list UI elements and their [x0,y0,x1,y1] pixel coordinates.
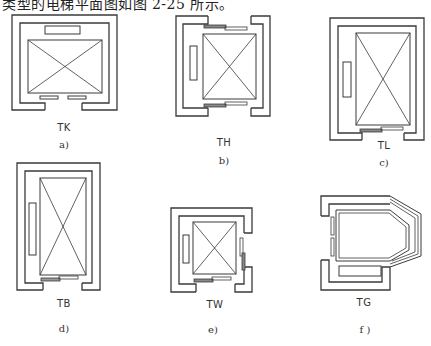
door-panel [360,129,382,132]
door-panel-side [331,238,334,256]
counterweight-rect [45,26,80,34]
counterweight-rect [29,203,36,255]
panel-f-tg-plan [321,196,421,290]
shaft-wall-outer [321,260,390,290]
panel-c-tl-plan [330,18,424,140]
counterweight-rect [190,46,197,80]
door-panel [68,96,86,99]
glass-wall-line [390,196,421,267]
door-panel [381,127,403,130]
panel-e-tw-plan [171,208,252,292]
panel-f-code: TG [357,297,372,308]
shaft-wall-inner [321,260,390,282]
panel-b-th-plan [176,16,270,116]
panel-b-sublabel: b) [219,155,229,166]
shaft-wall-inner [25,171,92,290]
panel-a-sublabel: a) [59,139,69,150]
panel-c-sublabel: c) [379,157,389,168]
panel-d-sublabel: d) [59,323,69,334]
panel-c-code: TL [378,140,391,151]
door-panel-bottom [212,277,231,280]
panel-d-code: TB [57,298,71,309]
shaft-wall-left-inner [183,16,208,108]
shaft-wall-right-inner [251,16,263,108]
door-panel-bottom [225,102,247,105]
counterweight-rect [183,235,189,263]
panel-b-code: TH [217,137,232,148]
door-panel-top [225,27,247,30]
panel-a-code: TK [57,122,71,133]
counterweight-rect [339,266,381,276]
car-outline-outer [336,210,409,261]
counterweight-rect [343,62,351,97]
door-panel-side [331,217,334,235]
panel-a-tk-plan [12,15,117,110]
door-panel-top [204,25,226,28]
glass-wall-line [390,202,415,261]
door-panel-bottom [204,104,226,107]
panel-e-sublabel: e) [208,324,218,335]
shaft-wall-right-outer [251,16,270,116]
door-panel [41,278,60,281]
door-panel [59,276,78,279]
panel-f-sublabel: f ) [360,324,371,335]
door-panel-bottom [194,279,213,282]
glass-wall-line [390,199,418,264]
door-panel-side [242,253,245,270]
panel-e-code: TW [207,299,224,310]
panel-d-tb-plan [17,163,100,290]
car-outline-inner [339,213,406,258]
elevator-plans-figure [0,0,431,346]
door-panel [40,96,58,99]
